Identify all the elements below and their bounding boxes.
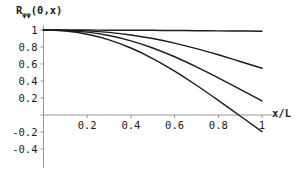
x-tick-label: 1 xyxy=(259,119,265,131)
y-tick-label: 0.6 xyxy=(19,58,38,70)
axes-group xyxy=(44,26,273,168)
x-tick-label: 0.2 xyxy=(78,119,97,131)
x-axis-tick-labels: 0.20.40.60.81 xyxy=(78,119,265,131)
y-tick-label: 0.4 xyxy=(19,75,38,87)
x-tick-label: 0.8 xyxy=(209,119,228,131)
y-tick-label: -0.4 xyxy=(12,143,37,155)
y-axis-title: Rφφ(0,x) xyxy=(16,4,62,19)
y-tick-label: -0.2 xyxy=(12,126,37,138)
y-tick-label: 0.2 xyxy=(19,92,38,104)
x-tick-label: 0.6 xyxy=(165,119,184,131)
data-curves xyxy=(44,30,263,132)
x-tick-label: 0.4 xyxy=(121,119,140,131)
y-tick-label: 0.8 xyxy=(19,41,38,53)
x-axis-title: x/L xyxy=(272,107,291,119)
curve-curve-3 xyxy=(44,30,263,101)
chart-plot-area: 10.80.60.40.2-0.2-0.4 0.20.40.60.81 Rφφ(… xyxy=(0,0,306,179)
curve-curve-2 xyxy=(44,30,263,68)
y-tick-label: 1 xyxy=(31,24,37,36)
y-axis-tick-labels: 10.80.60.40.2-0.2-0.4 xyxy=(12,24,37,155)
chart-svg: 10.80.60.40.2-0.2-0.4 0.20.40.60.81 Rφφ(… xyxy=(0,0,306,179)
curve-curve-4 xyxy=(44,30,263,132)
